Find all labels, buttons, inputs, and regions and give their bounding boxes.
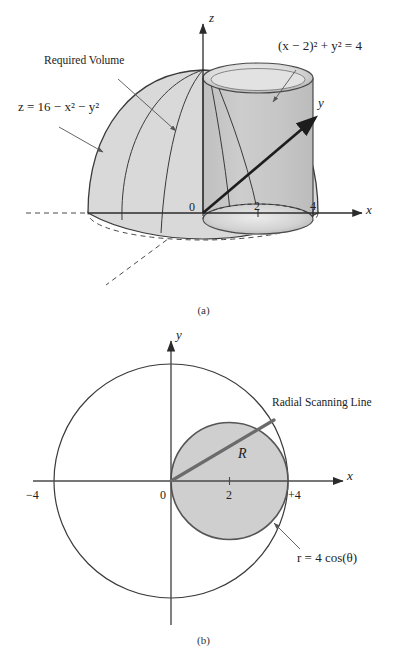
required-volume-label: Required Volume (44, 55, 124, 67)
y-axis-label: y (318, 96, 324, 109)
x-tick-label-4: 4 (310, 200, 316, 212)
panel-b-caption: (b) (0, 634, 407, 646)
polar-equation-label: r = 4 cos(θ) (297, 551, 357, 564)
y-axis-label-b: y (176, 328, 182, 341)
z-axis-label: z (209, 11, 214, 24)
x-tick-label-minus4: −4 (26, 489, 39, 501)
cylinder-equation-label: (x − 2)² + y² = 4 (278, 39, 362, 52)
radial-scanning-line-label: Radial Scanning Line (272, 397, 372, 409)
polar-equation-leader (274, 523, 300, 549)
panel-b-graphics (33, 341, 343, 625)
panel-a-caption: (a) (0, 304, 407, 316)
x-tick-label-0: 0 (189, 201, 195, 213)
paraboloid-equation-label: z = 16 − x² − y² (18, 100, 99, 113)
x-tick-label-0-b: 0 (160, 489, 166, 501)
figure-root: Required Volume z = 16 − x² − y² (x − 2)… (0, 0, 407, 661)
x-axis-label: x (366, 203, 372, 216)
x-axis-label-b: x (347, 469, 353, 482)
x-tick-label-plus4: +4 (288, 489, 301, 501)
paraboloid-equation-leader (59, 127, 103, 152)
x-tick-label-2-b: 2 (226, 489, 232, 501)
x-tick-label-2: 2 (254, 200, 260, 212)
cylinder-top-inner-rim (211, 69, 305, 91)
region-label: R (238, 447, 247, 461)
